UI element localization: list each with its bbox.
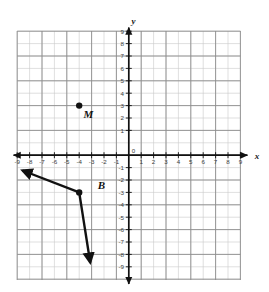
y-tick-label: -1 bbox=[118, 164, 124, 171]
y-tick-label: -6 bbox=[118, 226, 124, 233]
y-tick-label: -7 bbox=[118, 238, 124, 245]
point-b-marker bbox=[76, 189, 82, 195]
x-tick-label: 3 bbox=[164, 158, 168, 165]
x-tick-label: 1 bbox=[139, 158, 143, 165]
x-tick-label: 8 bbox=[226, 158, 230, 165]
y-tick-label: -2 bbox=[118, 176, 124, 183]
y-tick-label: -9 bbox=[118, 263, 124, 270]
x-tick-label: 7 bbox=[214, 158, 218, 165]
x-tick-label: -7 bbox=[39, 158, 45, 165]
y-tick-label: 1 bbox=[121, 127, 125, 134]
x-tick-label: -2 bbox=[101, 158, 107, 165]
y-tick-label: 7 bbox=[121, 52, 125, 59]
y-tick-label: -5 bbox=[118, 214, 124, 221]
x-tick-label: -5 bbox=[64, 158, 70, 165]
y-tick-label: 2 bbox=[121, 114, 125, 121]
x-tick-label: 2 bbox=[152, 158, 156, 165]
x-axis-name: x bbox=[254, 151, 260, 161]
y-tick-label: 4 bbox=[121, 90, 125, 97]
y-tick-label: -8 bbox=[118, 251, 124, 258]
x-tick-label: -4 bbox=[76, 158, 82, 165]
x-tick-label: -9 bbox=[14, 158, 20, 165]
coordinate-plane-figure: -9 -8 -7 -6 -5 -4 -3 -2 -1 0 1 2 3 4 5 6… bbox=[0, 0, 269, 292]
y-tick-label: 3 bbox=[121, 102, 125, 109]
x-tick-label: 6 bbox=[201, 158, 205, 165]
y-tick-label: 5 bbox=[121, 77, 125, 84]
origin-label: 0 bbox=[132, 147, 136, 154]
x-tick-label: 4 bbox=[177, 158, 181, 165]
x-tick-label: 9 bbox=[239, 158, 243, 165]
point-b-label: B bbox=[97, 179, 105, 191]
x-tick-label: -8 bbox=[27, 158, 33, 165]
y-tick-label: -3 bbox=[118, 189, 124, 196]
x-tick-label: -3 bbox=[89, 158, 95, 165]
coordinate-plane-svg: -9 -8 -7 -6 -5 -4 -3 -2 -1 0 1 2 3 4 5 6… bbox=[0, 0, 269, 292]
point-m-label: M bbox=[83, 108, 95, 120]
y-tick-label: 6 bbox=[121, 65, 125, 72]
y-tick-label: 8 bbox=[121, 40, 125, 47]
y-tick-label: -4 bbox=[118, 201, 124, 208]
x-tick-label: -6 bbox=[52, 158, 58, 165]
point-m-marker bbox=[76, 102, 82, 108]
y-tick-label: 9 bbox=[121, 28, 125, 35]
x-tick-label: 5 bbox=[189, 158, 193, 165]
